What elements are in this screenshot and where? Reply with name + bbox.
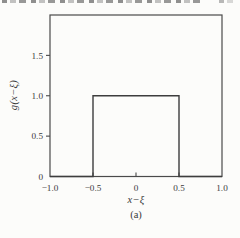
figure-scan: 00.51.01.5−1.0−0.500.51.0 x−ξ g(x−ξ) (a)	[0, 0, 240, 238]
x-tick-label: 0	[134, 183, 139, 193]
y-axis-title: g(x−ξ)	[8, 80, 19, 110]
x-tick-label: −0.5	[85, 183, 102, 193]
x-tick-label: 1.0	[216, 183, 228, 193]
figure-caption: (a)	[130, 209, 142, 220]
x-axis-title: x−ξ	[127, 194, 144, 205]
x-tick-label: 0.5	[173, 183, 185, 193]
y-tick-label: 0	[38, 172, 43, 182]
y-tick-label: 1.5	[32, 51, 44, 61]
series-line	[50, 96, 222, 177]
y-tick-label: 0.5	[32, 131, 44, 141]
x-tick-label: −1.0	[42, 183, 59, 193]
y-tick-label: 1.0	[32, 91, 44, 101]
chart-canvas: 00.51.01.5−1.0−0.500.51.0	[0, 0, 240, 238]
